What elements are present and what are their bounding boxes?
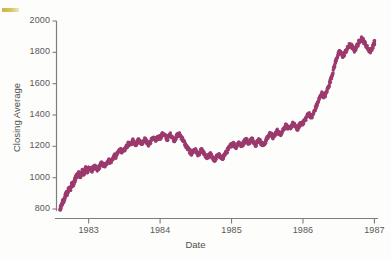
data-point [329, 81, 332, 84]
y-axis-tick-label: 1800 [18, 46, 50, 56]
data-point [166, 138, 169, 141]
x-axis-tick-label: 1983 [69, 225, 109, 235]
data-point [331, 71, 334, 74]
data-point [226, 151, 229, 154]
y-axis-tick-label: 1400 [18, 109, 50, 119]
y-axis-tick-label: 1000 [18, 172, 50, 182]
y-axis-tick-label: 1600 [18, 78, 50, 88]
data-point [59, 207, 62, 210]
y-axis-tick-label: 1200 [18, 140, 50, 150]
x-axis-title: Date [0, 239, 391, 250]
data-point [169, 131, 172, 134]
chart-plot-area [0, 0, 391, 259]
data-point [333, 65, 336, 68]
x-axis-ticks [89, 219, 375, 224]
x-axis-tick-label: 1985 [212, 225, 252, 235]
x-axis-tick-label: 1986 [283, 225, 323, 235]
data-series-points [58, 35, 376, 212]
data-point [366, 44, 369, 47]
data-point [373, 39, 376, 42]
y-axis-tick-label: 2000 [18, 15, 50, 25]
x-axis-tick-label: 1987 [354, 225, 391, 235]
chart-figure: 800100012001400160018002000 198319841985… [0, 0, 391, 259]
data-point [304, 119, 307, 122]
axis-lines [55, 21, 378, 219]
y-axis-title: Closing Average [11, 78, 22, 158]
y-axis-tick-label: 800 [18, 203, 50, 213]
x-axis-tick-label: 1984 [140, 225, 180, 235]
